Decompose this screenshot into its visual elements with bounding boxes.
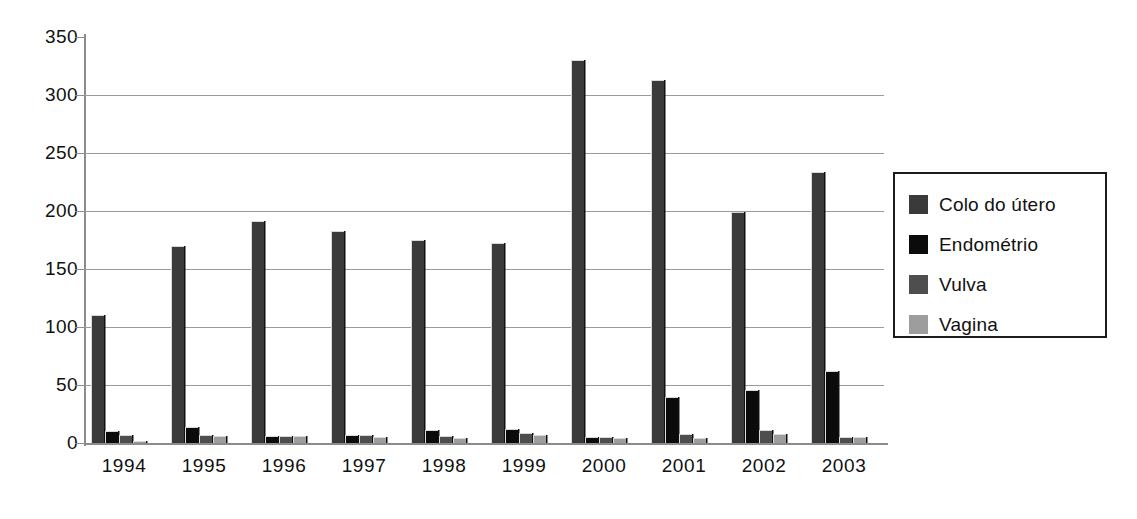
bar: [773, 434, 786, 443]
bar-group: [324, 37, 404, 443]
legend-swatch-icon: [909, 315, 928, 334]
bar: [331, 231, 344, 443]
y-tick-label: 50: [6, 374, 78, 396]
bar: [679, 434, 692, 443]
bar: [505, 429, 518, 443]
bar: [759, 430, 772, 443]
y-axis-labels: 350300250200150100500: [0, 0, 78, 519]
bar: [345, 435, 358, 443]
bar-group: [644, 37, 724, 443]
bar: [731, 212, 744, 443]
bar-group: [244, 37, 324, 443]
x-tick-label: 1999: [484, 455, 564, 477]
x-axis-line: [84, 443, 888, 445]
bar: [373, 437, 386, 443]
x-tick-label: 1997: [324, 455, 404, 477]
legend-label: Vulva: [939, 274, 987, 296]
legend-label: Vagina: [939, 314, 998, 336]
legend-label: Colo do útero: [939, 194, 1056, 216]
x-tick-label: 1996: [244, 455, 324, 477]
bar: [425, 430, 438, 443]
bar: [119, 435, 132, 443]
legend-items: Colo do úteroEndométrioVulvaVagina: [909, 189, 1105, 340]
bar: [585, 437, 598, 443]
bar: [533, 435, 546, 443]
bar: [171, 246, 184, 443]
bar: [293, 436, 306, 443]
bar: [665, 397, 678, 443]
x-tick-label: 2001: [644, 455, 724, 477]
bar: [213, 436, 226, 443]
x-axis-labels: 1994199519961997199819992000200120022003: [0, 455, 1137, 495]
legend-item[interactable]: Vagina: [909, 309, 1105, 340]
y-tick-label: 200: [6, 200, 78, 222]
bar: [359, 435, 372, 443]
bar-group: [724, 37, 804, 443]
bar-group: [564, 37, 644, 443]
legend: Colo do úteroEndométrioVulvaVagina: [893, 172, 1107, 338]
bar: [279, 436, 292, 443]
legend-item[interactable]: Endométrio: [909, 229, 1105, 260]
bar: [745, 390, 758, 443]
y-tick-label: 0: [6, 432, 78, 454]
legend-item[interactable]: Colo do útero: [909, 189, 1105, 220]
x-tick-label: 2000: [564, 455, 644, 477]
bar: [519, 433, 532, 443]
legend-swatch-icon: [909, 275, 928, 294]
bar: [199, 435, 212, 443]
legend-swatch-icon: [909, 195, 928, 214]
bar: [185, 427, 198, 443]
legend-label: Endométrio: [939, 234, 1038, 256]
y-tick-label: 150: [6, 258, 78, 280]
x-tick-label: 1998: [404, 455, 484, 477]
bar: [453, 438, 466, 443]
bar-group: [404, 37, 484, 443]
x-tick-label: 1994: [84, 455, 164, 477]
y-tick-mark: [75, 443, 85, 444]
y-tick-label: 300: [6, 84, 78, 106]
bar: [825, 371, 838, 443]
bar-group: [84, 37, 164, 443]
bar: [105, 431, 118, 443]
bar: [811, 172, 824, 443]
bar-chart: 350300250200150100500 199419951996199719…: [0, 0, 1137, 519]
plot-area: [84, 37, 884, 443]
legend-item[interactable]: Vulva: [909, 269, 1105, 300]
bar: [133, 441, 146, 443]
x-tick-label: 2003: [804, 455, 884, 477]
bar: [411, 240, 424, 443]
x-tick-label: 1995: [164, 455, 244, 477]
bar: [251, 221, 264, 443]
legend-swatch-icon: [909, 235, 928, 254]
bar: [571, 60, 584, 443]
bar: [491, 243, 504, 443]
bar: [613, 438, 626, 443]
bar-group: [484, 37, 564, 443]
bar-group: [164, 37, 244, 443]
bar: [651, 80, 664, 443]
bar: [265, 436, 278, 443]
y-tick-label: 100: [6, 316, 78, 338]
bar: [839, 437, 852, 443]
bar: [439, 436, 452, 443]
bar: [599, 437, 612, 443]
bar-group: [804, 37, 884, 443]
y-tick-label: 350: [6, 26, 78, 48]
bar: [693, 438, 706, 443]
bar: [853, 437, 866, 443]
x-tick-label: 2002: [724, 455, 804, 477]
y-tick-label: 250: [6, 142, 78, 164]
bar: [91, 315, 104, 443]
